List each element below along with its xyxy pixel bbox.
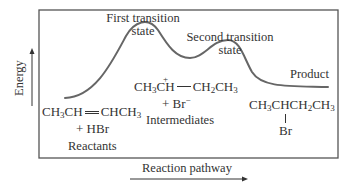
- second-transition-state-label: Second transition state: [182, 31, 278, 57]
- double-bond: [85, 111, 99, 114]
- first-transition-state-label: First transition state: [100, 12, 186, 38]
- energy-arrow-head-icon: [30, 48, 35, 54]
- intermediate-carbocation-formula: CH3+CHCH2CH3: [134, 80, 238, 94]
- reactant-hbr: + HBr: [76, 122, 109, 136]
- pathway-arrow-head-icon: [242, 177, 248, 182]
- x-axis-label: Reaction pathway: [142, 162, 232, 175]
- product-formula: CH3CHCH2CH3: [249, 98, 335, 112]
- y-axis-label: Energy: [13, 60, 26, 96]
- intermediate-bromide-ion: + Br−: [162, 97, 191, 111]
- reactant-alkene-formula: CH3CHCHCH3: [42, 105, 141, 119]
- single-bond: [177, 86, 191, 87]
- product-bromine-substituent: Br: [279, 124, 292, 138]
- product-br-bond: [285, 114, 286, 123]
- product-label: Product: [290, 68, 329, 81]
- reactants-label: Reactants: [68, 140, 117, 153]
- intermediates-label: Intermediates: [146, 114, 214, 127]
